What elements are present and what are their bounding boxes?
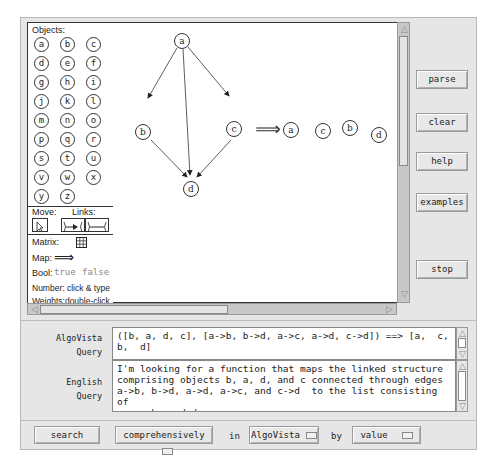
result-node-d[interactable]: d xyxy=(371,127,387,143)
menu-indicator-icon xyxy=(402,432,413,439)
object-v[interactable]: v xyxy=(34,170,49,185)
object-f[interactable]: f xyxy=(86,56,101,71)
object-p[interactable]: p xyxy=(34,132,49,147)
scroll-down-arrow-icon[interactable]: ▽ xyxy=(457,349,467,359)
object-j[interactable]: j xyxy=(34,94,49,109)
algovista-query-field[interactable]: ([b, a, d, c], [a->b, b->d, a->c, a->d, … xyxy=(112,327,456,360)
bool-false-item[interactable]: false xyxy=(82,267,109,277)
object-h[interactable]: h xyxy=(60,75,75,90)
search-order-menu[interactable]: value xyxy=(352,426,421,444)
object-d[interactable]: d xyxy=(34,56,49,71)
scroll-thumb[interactable] xyxy=(458,371,466,401)
scroll-left-arrow-icon[interactable]: ◁ xyxy=(29,304,39,314)
help-button[interactable]: help xyxy=(416,152,468,171)
object-g[interactable]: g xyxy=(34,75,49,90)
object-q[interactable]: q xyxy=(60,132,75,147)
bool-label: Bool: xyxy=(32,268,53,278)
result-node-c[interactable]: c xyxy=(315,123,331,139)
object-m[interactable]: m xyxy=(34,113,49,128)
links-label: Links: xyxy=(72,207,96,217)
english-query-label-line1: English xyxy=(32,377,102,387)
section-divider xyxy=(20,320,477,321)
scroll-down-arrow-icon[interactable]: ▽ xyxy=(457,401,467,411)
matrix-grid-icon[interactable] xyxy=(76,237,87,248)
search-mode-value: comprehensively xyxy=(123,430,204,440)
object-a[interactable]: a xyxy=(34,37,49,52)
directed-link-tool-button[interactable] xyxy=(61,218,85,232)
directed-link-icon xyxy=(62,221,84,233)
object-b[interactable]: b xyxy=(60,37,75,52)
object-u[interactable]: u xyxy=(86,151,101,166)
graph-node-b[interactable]: b xyxy=(135,124,151,140)
object-c[interactable]: c xyxy=(86,37,101,52)
english-query-scrollbar[interactable]: △ ▽ xyxy=(456,360,468,412)
undirected-link-tool-button[interactable] xyxy=(85,218,109,232)
in-label: in xyxy=(229,431,240,441)
palette-divider xyxy=(28,234,113,235)
object-e[interactable]: e xyxy=(60,56,75,71)
object-s[interactable]: s xyxy=(34,151,49,166)
menu-indicator-icon xyxy=(162,448,173,455)
map-arrow[interactable]: ⟹ xyxy=(255,120,281,138)
search-order-value: value xyxy=(360,430,387,440)
object-x[interactable]: x xyxy=(86,170,101,185)
scroll-thumb[interactable] xyxy=(458,338,466,348)
pointer-arrow-icon xyxy=(33,221,47,233)
vertical-scroll-thumb[interactable] xyxy=(399,36,408,166)
search-source-value: AlgoVista xyxy=(251,430,300,440)
map-arrow-icon[interactable]: ⟹ xyxy=(54,249,74,265)
drawing-canvas[interactable]: a b c d ⟹ a c b d xyxy=(113,22,397,303)
english-query-label-line2: Query xyxy=(32,391,102,401)
graph-edges xyxy=(113,23,397,304)
canvas-horizontal-scrollbar[interactable]: ◁ ▷ xyxy=(27,303,397,315)
search-mode-menu[interactable]: comprehensively xyxy=(115,426,213,444)
graph-node-a[interactable]: a xyxy=(174,33,190,49)
horizontal-scroll-thumb[interactable] xyxy=(40,305,228,314)
graph-node-c[interactable]: c xyxy=(226,121,242,137)
object-o[interactable]: o xyxy=(86,113,101,128)
object-i[interactable]: i xyxy=(86,75,101,90)
scroll-right-arrow-icon[interactable]: ▷ xyxy=(384,304,394,314)
result-node-b[interactable]: b xyxy=(342,120,358,136)
graph-node-d[interactable]: d xyxy=(183,181,199,197)
scroll-up-arrow-icon[interactable]: △ xyxy=(457,328,467,338)
undirected-link-icon xyxy=(86,221,108,233)
move-tool-button[interactable] xyxy=(32,218,48,232)
objects-label: Objects: xyxy=(32,25,65,35)
english-query-field[interactable]: I'm looking for a function that maps the… xyxy=(112,360,456,412)
object-w[interactable]: w xyxy=(60,170,75,185)
parse-button[interactable]: parse xyxy=(416,70,468,89)
object-k[interactable]: k xyxy=(60,94,75,109)
result-node-a[interactable]: a xyxy=(283,122,299,138)
section-divider xyxy=(20,420,477,421)
object-z[interactable]: z xyxy=(60,189,75,204)
algovista-query-scrollbar[interactable]: △ ▽ xyxy=(456,327,468,360)
scroll-up-arrow-icon[interactable]: △ xyxy=(457,361,467,371)
bool-true-item[interactable]: true xyxy=(54,267,76,277)
search-source-menu[interactable]: AlgoVista xyxy=(249,426,319,444)
canvas-vertical-scrollbar[interactable]: △ ▽ xyxy=(397,22,410,303)
stop-button[interactable]: stop xyxy=(416,260,468,279)
by-label: by xyxy=(331,431,342,441)
scroll-up-arrow-icon[interactable]: △ xyxy=(399,24,409,34)
object-n[interactable]: n xyxy=(60,113,75,128)
map-label: Map: xyxy=(32,253,52,263)
algovista-query-label-line2: Query xyxy=(32,347,102,357)
move-label: Move: xyxy=(32,207,57,217)
menu-indicator-icon xyxy=(306,432,317,439)
clear-button[interactable]: clear xyxy=(416,113,468,132)
examples-button[interactable]: examples xyxy=(416,193,468,212)
number-hint: Number: click & type xyxy=(32,283,110,293)
object-t[interactable]: t xyxy=(60,151,75,166)
object-l[interactable]: l xyxy=(86,94,101,109)
search-button[interactable]: search xyxy=(34,426,100,444)
scroll-down-arrow-icon[interactable]: ▽ xyxy=(399,289,409,299)
object-palette: Objects: abcdefghijklmnopqrstuvwxyz Move… xyxy=(27,22,114,310)
object-r[interactable]: r xyxy=(86,132,101,147)
algovista-query-label-line1: AlgoVista xyxy=(32,333,102,343)
matrix-label: Matrix: xyxy=(32,237,59,247)
object-y[interactable]: y xyxy=(34,189,49,204)
